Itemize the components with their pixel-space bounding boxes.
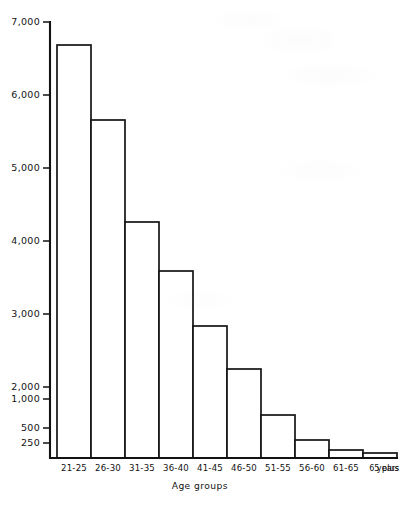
y-tick-label-7000: 7,000 <box>11 16 40 27</box>
bar-56-60 <box>295 440 329 458</box>
y-tick-label-4000: 4,000 <box>11 235 40 246</box>
bar-51-55 <box>261 415 295 458</box>
x-tick-label-61-65: 61-65 <box>333 463 359 473</box>
x-tick-label-51-55: 51-55 <box>265 463 291 473</box>
chart-canvas: 7,0006,0005,0004,0003,0002,0001,00050025… <box>0 0 403 511</box>
x-tick-label-56-60: 56-60 <box>299 463 325 473</box>
histogram-chart: 7,0006,0005,0004,0003,0002,0001,00050025… <box>0 0 403 511</box>
y-tick-label-250: 250 <box>21 437 40 448</box>
bar-26-30 <box>91 120 125 458</box>
y-tick-label-3000: 3,000 <box>11 308 40 319</box>
y-tick-label-6000: 6,000 <box>11 89 40 100</box>
y-tick-label-500: 500 <box>21 422 40 433</box>
x-tick-label-46-50: 46-50 <box>231 463 257 473</box>
bar-36-40 <box>159 271 193 458</box>
x-axis-unit-suffix: years <box>377 463 399 473</box>
bar-61-65 <box>329 450 363 458</box>
bar-31-35 <box>125 222 159 458</box>
y-tick-label-5000: 5,000 <box>11 162 40 173</box>
y-tick-label-2000: 2,000 <box>11 381 40 392</box>
x-tick-label-41-45: 41-45 <box>197 463 223 473</box>
bar-46-50 <box>227 369 261 458</box>
x-tick-label-31-35: 31-35 <box>129 463 155 473</box>
x-tick-label-26-30: 26-30 <box>95 463 121 473</box>
x-axis-title: Age groups <box>172 480 228 491</box>
x-tick-label-21-25: 21-25 <box>61 463 87 473</box>
bar-41-45 <box>193 326 227 458</box>
x-tick-label-36-40: 36-40 <box>163 463 189 473</box>
bar-21-25 <box>57 45 91 458</box>
y-tick-label-1000: 1,000 <box>11 393 40 404</box>
